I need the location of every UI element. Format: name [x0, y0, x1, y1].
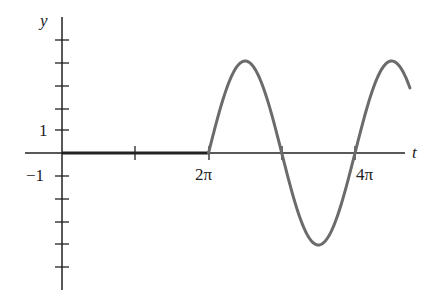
t-axis-label: t [412, 143, 418, 162]
tick-label-4pi: 4π [356, 165, 374, 184]
chart: y t 1 −1 2π 4π [0, 0, 441, 307]
tick-label-2pi: 2π [195, 165, 213, 184]
tick-label-minus-1: −1 [26, 166, 44, 185]
y-axis-label: y [38, 11, 48, 30]
tick-label-1: 1 [39, 121, 48, 140]
